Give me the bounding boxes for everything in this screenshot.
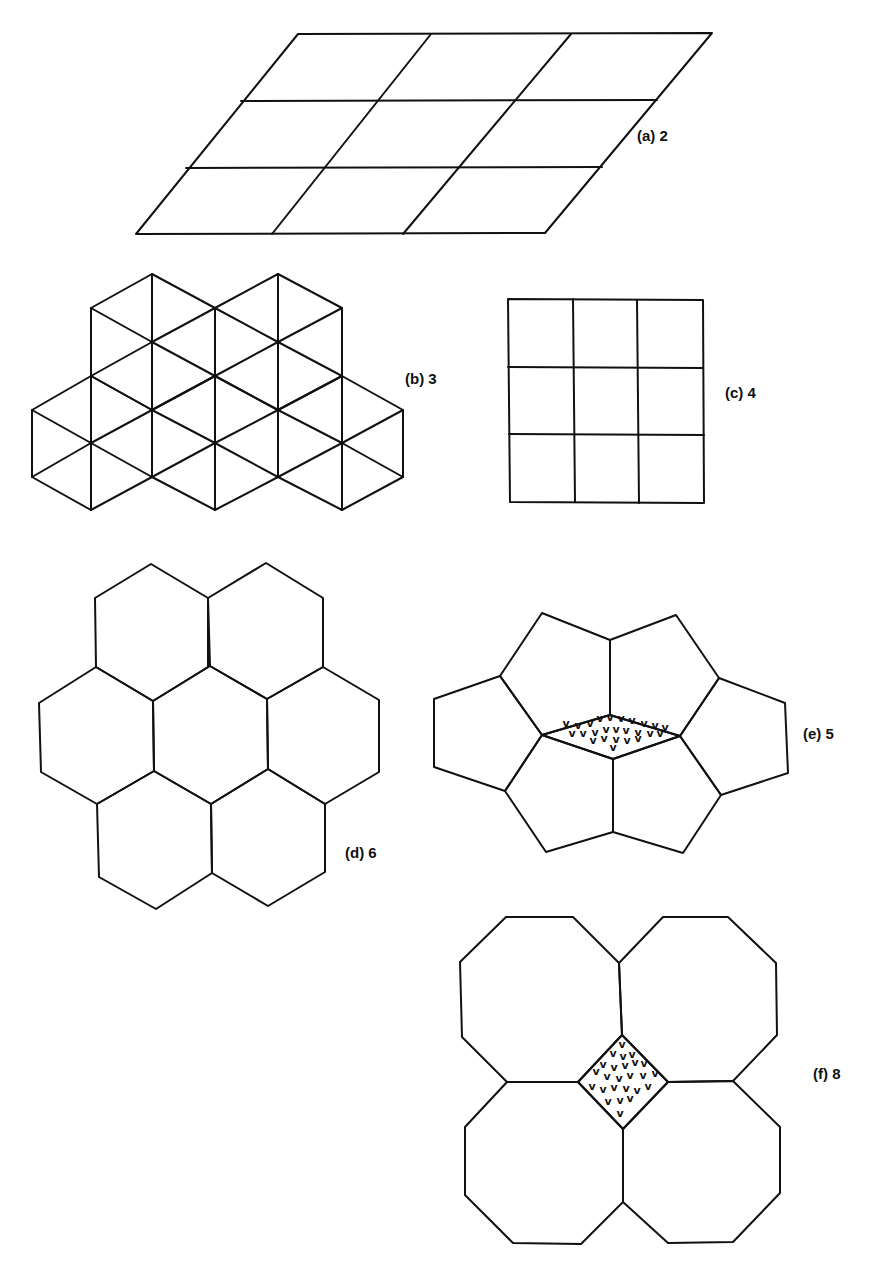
tile-polygon [465, 1082, 623, 1244]
tile-polygon [136, 33, 712, 234]
spoke-line [32, 410, 91, 443]
spoke-line [215, 443, 278, 477]
hatch-mark: v [634, 732, 642, 745]
spoke-line [278, 410, 342, 443]
hatch-mark: v [610, 1081, 618, 1094]
tile-polygon [610, 615, 719, 736]
lattice-line [241, 100, 657, 101]
spoke-line [215, 342, 278, 376]
spoke-line [278, 443, 342, 477]
hatch-mark: v [644, 1080, 652, 1093]
lattice-line [403, 34, 571, 234]
lattice-line [509, 434, 704, 435]
panel-f-octagonal-tiling: vvvvvvvvvvvvvvvvvvvvvvvvv [460, 917, 780, 1244]
tiling-diagram: vvvvvvvvvvvvvvvvvvvvvvvvv vvvvvvvvvvvvvv… [0, 0, 878, 1278]
tile-polygon [434, 676, 542, 791]
spoke-line [91, 308, 152, 342]
lattice-line [272, 34, 431, 234]
lattice-line [508, 367, 703, 368]
hatch-mark: v [609, 741, 617, 754]
spoke-line [152, 342, 215, 376]
panel-e-label: (e) 5 [803, 726, 834, 741]
tile-polygon [623, 1081, 780, 1243]
tile-polygon [619, 917, 777, 1082]
tile-polygon [508, 299, 704, 503]
tile-polygon [39, 667, 154, 804]
hatch-mark: v [604, 1095, 612, 1108]
panel-c-square-lattice [508, 299, 704, 503]
tile-polygon [680, 678, 788, 795]
lattice-line [186, 167, 602, 168]
hatch-mark: v [626, 1069, 634, 1082]
hatch-mark: v [616, 1094, 624, 1107]
panel-b-triangular-lattice [32, 274, 403, 510]
spoke-line [91, 342, 152, 376]
spoke-line [342, 410, 403, 443]
hatch-mark: v [633, 1084, 641, 1097]
spoke-line [342, 443, 403, 477]
tile-polygon [153, 666, 268, 804]
panel-a-label: (a) 2 [637, 128, 668, 143]
hatch-mark: v [609, 1047, 617, 1060]
spoke-line [152, 443, 215, 477]
panel-b-label: (b) 3 [405, 371, 437, 386]
panel-a-parallelogram-lattice [136, 33, 712, 234]
hatch-mark: v [631, 1056, 639, 1069]
tile-polygon [208, 563, 323, 699]
lattice-line [637, 300, 639, 503]
tile-polygon [97, 771, 212, 909]
tile-polygon [267, 667, 379, 804]
spoke-line [278, 308, 342, 342]
panel-e-pentagonal-tiling: vvvvvvvvvvvvvvvvvvvvvvvvv [434, 613, 788, 853]
tile-polygon [505, 735, 613, 852]
spoke-line [215, 410, 278, 443]
spoke-line [215, 308, 278, 342]
hatch-mark: v [589, 734, 597, 747]
panel-d-hexagonal-tiling [39, 563, 379, 909]
hatch-mark: v [626, 1092, 634, 1105]
hatch-mark: v [616, 1107, 624, 1120]
hatch-mark: v [568, 727, 576, 740]
hatch-mark: v [600, 732, 608, 745]
spoke-line [91, 410, 152, 443]
spoke-line [32, 443, 91, 477]
tile-polygon [211, 769, 325, 906]
spoke-line [152, 308, 215, 342]
lattice-line [573, 299, 575, 502]
hatch-mark: v [623, 734, 631, 747]
panel-c-label: (c) 4 [725, 385, 756, 400]
tile-polygon [95, 564, 208, 701]
spoke-line [278, 342, 342, 376]
tile-polygon [613, 736, 721, 853]
hatch-mark: v [579, 727, 587, 740]
panel-d-label: (d) 6 [345, 845, 377, 860]
hatch-mark: v [592, 1065, 600, 1078]
panel-f-label: (f) 8 [813, 1066, 841, 1081]
hatch-mark: v [588, 1080, 596, 1093]
spoke-line [91, 443, 152, 477]
tile-polygon [460, 917, 622, 1082]
spoke-line [152, 410, 215, 443]
